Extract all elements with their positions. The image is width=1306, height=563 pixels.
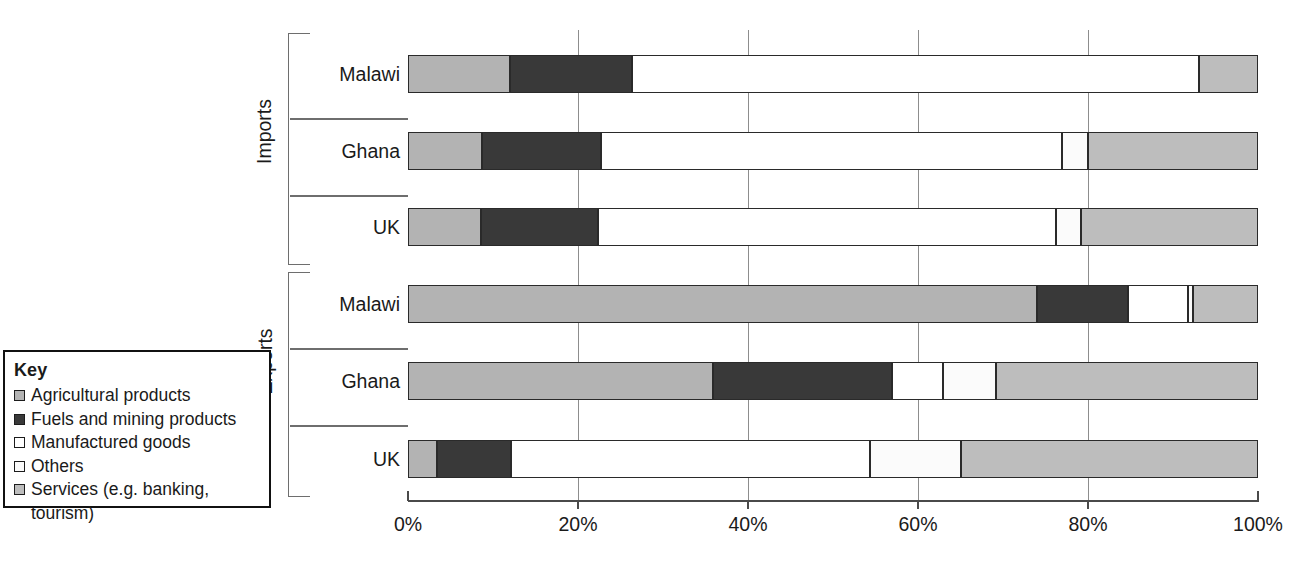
stacked-bar[interactable]: [408, 208, 1258, 246]
bar-category-label: Ghana: [280, 140, 400, 163]
legend-item-label: Manufactured goods: [31, 431, 191, 455]
x-axis-tick: [577, 500, 579, 509]
bar-segment[interactable]: [961, 440, 1258, 478]
x-axis-tick: [1087, 500, 1089, 509]
bar-segment[interactable]: [996, 362, 1258, 400]
bar-segment[interactable]: [598, 208, 1055, 246]
stacked-bar[interactable]: [408, 132, 1258, 170]
x-axis-tick-label: 100%: [1213, 513, 1303, 536]
x-axis-tick-label: 40%: [703, 513, 793, 536]
legend: Key Agricultural productsFuels and minin…: [3, 350, 271, 508]
bar-segment[interactable]: [1193, 285, 1258, 323]
legend-item: Manufactured goods: [14, 431, 269, 455]
group-separator-tick: [290, 425, 408, 427]
x-axis-tick-label: 60%: [873, 513, 963, 536]
stacked-bar[interactable]: [408, 285, 1258, 323]
x-axis-tick-label: 20%: [533, 513, 623, 536]
bar-segment[interactable]: [408, 208, 481, 246]
bar-segment[interactable]: [1088, 132, 1258, 170]
bar-segment[interactable]: [1056, 208, 1082, 246]
bar-segment[interactable]: [510, 55, 632, 93]
legend-item: Services (e.g. banking, tourism): [14, 478, 269, 525]
x-axis-tick: [917, 500, 919, 509]
bar-category-label: UK: [280, 216, 400, 239]
bar-segment[interactable]: [482, 132, 601, 170]
bar-segment[interactable]: [1199, 55, 1258, 93]
bar-segment[interactable]: [601, 132, 1063, 170]
legend-item-label: Fuels and mining products: [31, 408, 236, 432]
swatch-icon: [14, 461, 25, 472]
gridline: [748, 30, 749, 500]
swatch-icon: [14, 414, 25, 425]
bar-segment[interactable]: [437, 440, 511, 478]
stacked-bar[interactable]: [408, 362, 1258, 400]
gridline: [1088, 30, 1089, 500]
bar-segment[interactable]: [408, 55, 510, 93]
legend-item: Others: [14, 455, 269, 479]
bar-segment[interactable]: [408, 132, 482, 170]
bar-category-label: UK: [280, 448, 400, 471]
group-label: Imports: [253, 99, 276, 164]
group-separator-tick: [290, 348, 408, 350]
gridline: [918, 30, 919, 500]
legend-item: Agricultural products: [14, 384, 269, 408]
swatch-icon: [14, 390, 25, 401]
bar-segment[interactable]: [1081, 208, 1258, 246]
x-axis-tick: [1257, 491, 1259, 501]
legend-item-label: Agricultural products: [31, 384, 191, 408]
bar-segment[interactable]: [892, 362, 942, 400]
legend-items: Agricultural productsFuels and mining pr…: [14, 384, 269, 525]
bar-segment[interactable]: [943, 362, 997, 400]
bar-segment[interactable]: [408, 285, 1037, 323]
bar-segment[interactable]: [481, 208, 598, 246]
stacked-bar[interactable]: [408, 440, 1258, 478]
bar-segment[interactable]: [632, 55, 1199, 93]
bar-category-label: Malawi: [280, 293, 400, 316]
swatch-icon: [14, 484, 25, 495]
stacked-bar[interactable]: [408, 55, 1258, 93]
legend-item-label: Others: [31, 455, 84, 479]
group-separator-tick: [290, 118, 408, 120]
bar-segment[interactable]: [511, 440, 871, 478]
bar-segment[interactable]: [408, 440, 437, 478]
bar-segment[interactable]: [713, 362, 892, 400]
swatch-icon: [14, 437, 25, 448]
bar-category-label: Malawi: [280, 63, 400, 86]
bar-segment[interactable]: [408, 362, 713, 400]
bar-category-label: Ghana: [280, 370, 400, 393]
legend-item: Fuels and mining products: [14, 408, 269, 432]
plot-area: [408, 30, 1258, 500]
group-separator-tick: [290, 195, 408, 197]
gridline: [578, 30, 579, 500]
x-axis-tick: [747, 500, 749, 509]
x-axis-tick: [407, 491, 409, 501]
bar-segment[interactable]: [1128, 285, 1188, 323]
legend-item-label: Services (e.g. banking, tourism): [31, 478, 209, 525]
bar-segment[interactable]: [870, 440, 961, 478]
x-axis-tick-label: 0%: [363, 513, 453, 536]
x-axis-line: [408, 500, 1259, 502]
x-axis-tick-label: 80%: [1043, 513, 1133, 536]
bar-segment[interactable]: [1037, 285, 1128, 323]
bar-segment[interactable]: [1062, 132, 1088, 170]
legend-title: Key: [14, 359, 269, 381]
